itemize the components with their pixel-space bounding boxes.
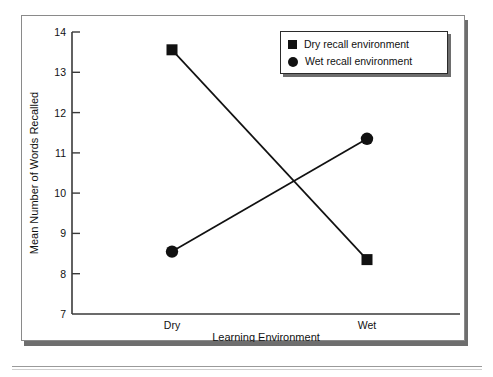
figure-container: 14 13 12 11 10 9 8 7: [0, 0, 493, 377]
series-dry-recall-environment: [167, 44, 373, 265]
legend-item-dry: Dry recall environment: [288, 36, 440, 53]
y-axis-tick-labels: 14 13 12 11 10 9 8 7: [54, 26, 66, 320]
square-marker-icon: [288, 40, 297, 49]
legend-label-wet: Wet recall environment: [305, 56, 412, 67]
y-tick-label: 13: [54, 66, 66, 78]
circle-marker-icon: [166, 245, 178, 257]
bottom-divider: [12, 366, 482, 367]
x-axis-category-labels: Dry Wet: [164, 319, 376, 331]
y-tick-label: 9: [60, 227, 66, 239]
y-tick-label: 12: [54, 107, 66, 119]
y-tick-label: 11: [55, 147, 66, 159]
y-axis-ticks: [72, 32, 80, 274]
legend-label-dry: Dry recall environment: [304, 39, 409, 50]
y-tick-label: 14: [54, 26, 66, 38]
x-tick-label-wet: Wet: [358, 319, 377, 331]
circle-marker-icon: [288, 57, 298, 67]
y-tick-label: 10: [54, 187, 66, 199]
chart-legend: Dry recall environment Wet recall enviro…: [280, 31, 448, 74]
circle-marker-icon: [361, 133, 373, 145]
y-axis-title: Mean Number of Words Recalled: [28, 92, 40, 254]
x-tick-label-dry: Dry: [164, 319, 181, 331]
legend-item-wet: Wet recall environment: [288, 53, 440, 70]
bottom-divider-secondary: [12, 369, 482, 370]
y-tick-label: 7: [60, 308, 66, 320]
square-marker-icon: [362, 254, 373, 265]
square-marker-icon: [167, 44, 178, 55]
series-dry-line-segment: [172, 50, 367, 260]
series-wet-recall-environment: [166, 133, 373, 258]
y-tick-label: 8: [60, 268, 66, 280]
figure-frame: 14 13 12 11 10 9 8 7: [21, 15, 465, 341]
x-axis-title: Learning Environment: [212, 331, 320, 342]
plot-area: 14 13 12 11 10 9 8 7: [22, 16, 466, 342]
